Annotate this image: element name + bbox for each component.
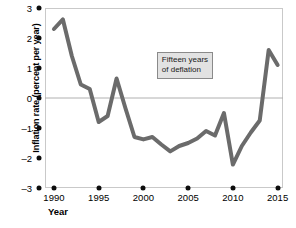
inflation-rate-chart: Inflation rate (percent per year) 3210–1… xyxy=(0,0,296,228)
x-tick-dot xyxy=(230,186,235,191)
x-tick-label: 1990 xyxy=(43,192,64,203)
y-tick-label: –2 xyxy=(14,153,32,164)
y-tick-label: –3 xyxy=(14,183,32,194)
deflation-callout: Fifteen years of deflation xyxy=(157,52,213,79)
x-tick-label: 2005 xyxy=(178,192,199,203)
y-tick-label: 2 xyxy=(14,33,32,44)
y-tick-dot xyxy=(37,96,42,101)
y-axis-title: Inflation rate (percent per year) xyxy=(31,5,41,171)
y-tick-dot xyxy=(37,126,42,131)
deflation-callout-line2: of deflation xyxy=(162,65,208,75)
y-tick-label: 1 xyxy=(14,63,32,74)
x-tick-dot xyxy=(141,186,146,191)
deflation-callout-line1: Fifteen years xyxy=(162,55,208,65)
x-tick-dot xyxy=(275,186,280,191)
x-tick-label: 2015 xyxy=(267,192,288,203)
x-tick-label: 1995 xyxy=(88,192,109,203)
y-tick-label: 0 xyxy=(14,93,32,104)
y-tick-dot xyxy=(37,156,42,161)
y-tick-label: 3 xyxy=(14,3,32,14)
y-tick-label: –1 xyxy=(14,123,32,134)
x-tick-dot xyxy=(51,186,56,191)
y-tick-dot xyxy=(37,186,42,191)
x-axis-title: Year xyxy=(48,206,68,217)
x-tick-dot xyxy=(96,186,101,191)
inflation-rate-series xyxy=(54,19,278,164)
y-tick-dot xyxy=(37,66,42,71)
x-tick-label: 2010 xyxy=(222,192,243,203)
y-tick-dot xyxy=(37,6,42,11)
y-tick-dot xyxy=(37,36,42,41)
x-tick-dot xyxy=(186,186,191,191)
x-tick-label: 2000 xyxy=(133,192,154,203)
